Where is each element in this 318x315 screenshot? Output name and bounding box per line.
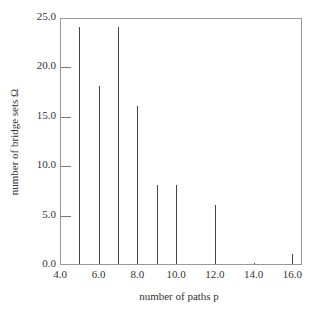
y-tick-mark [61, 67, 71, 68]
y-tick-mark [61, 216, 71, 217]
bar-p-10 [176, 185, 177, 264]
x-tick-label: 12.0 [200, 268, 230, 280]
x-axis-title: number of paths p [0, 290, 318, 302]
bar-p-14 [254, 263, 255, 264]
y-tick-label: 15.0 [16, 109, 56, 121]
y-axis-title: number of bridge sets Ω [8, 89, 20, 196]
y-tick-label: 5.0 [16, 208, 56, 220]
bar-p-9 [157, 185, 158, 264]
y-tick-mark [61, 166, 71, 167]
x-tick-label: 8.0 [122, 268, 152, 280]
bar-p-5 [79, 27, 80, 264]
bar-p-8 [137, 106, 138, 264]
bar-p-7 [118, 27, 119, 264]
x-tick-label: 16.0 [277, 268, 307, 280]
bar-p-6 [99, 86, 100, 264]
y-tick-label: 10.0 [16, 158, 56, 170]
x-tick-label: 10.0 [161, 268, 191, 280]
x-tick-label: 4.0 [45, 268, 75, 280]
bar-p-16 [292, 254, 293, 264]
y-tick-label: 25.0 [16, 10, 56, 22]
x-tick-label: 6.0 [84, 268, 114, 280]
chart-plot-area [60, 18, 302, 265]
y-tick-mark [61, 117, 71, 118]
x-tick-label: 14.0 [239, 268, 269, 280]
bar-p-12 [215, 205, 216, 264]
y-tick-label: 20.0 [16, 59, 56, 71]
